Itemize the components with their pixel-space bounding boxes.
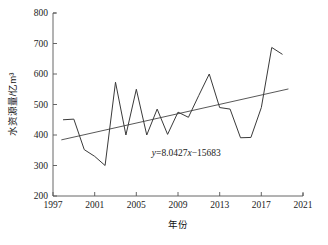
x-tick-label-2021: 2021 xyxy=(294,200,313,210)
y-axis-title: 水资源量/亿m³ xyxy=(7,73,18,137)
trend-equation-annotation: y=8.0427x−15683 xyxy=(151,148,221,158)
y-tick-label-400: 400 xyxy=(34,130,49,140)
x-axis-title: 年份 xyxy=(168,219,188,230)
water-resource-line-chart: 200 300 400 500 600 700 800 1997 2001 20… xyxy=(0,0,328,245)
x-tick-label-2009: 2009 xyxy=(169,200,188,210)
y-tick-label-500: 500 xyxy=(34,100,49,110)
y-tick-label-700: 700 xyxy=(34,39,49,49)
x-tick-label-2005: 2005 xyxy=(127,200,146,210)
x-tick-label-2017: 2017 xyxy=(252,200,271,210)
y-tick-label-300: 300 xyxy=(34,161,49,171)
x-tick-label-2013: 2013 xyxy=(210,200,229,210)
x-tick-label-1997: 1997 xyxy=(44,200,63,210)
y-tick-label-800: 800 xyxy=(34,8,49,18)
x-tick-label-2001: 2001 xyxy=(85,200,104,210)
y-tick-label-600: 600 xyxy=(34,69,49,79)
chart-container: 200 300 400 500 600 700 800 1997 2001 20… xyxy=(0,0,328,245)
